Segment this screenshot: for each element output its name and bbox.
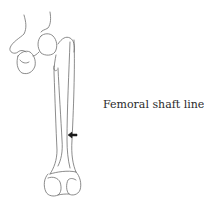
shaft-lateral: [72, 40, 76, 172]
femoral-head: [38, 34, 57, 55]
femur-diagram: Femoral shaft line: [0, 0, 204, 210]
pelvis-outline: [10, 15, 26, 53]
femoral-shaft-line-label: Femoral shaft line: [103, 98, 204, 111]
femoral-shaft-line: [67, 42, 70, 168]
medial-condyle: [44, 174, 61, 196]
acetabulum-outline: [17, 51, 35, 73]
lateral-condyle: [67, 172, 81, 195]
greater-trochanter: [58, 37, 74, 52]
shaft-medial: [50, 55, 57, 174]
